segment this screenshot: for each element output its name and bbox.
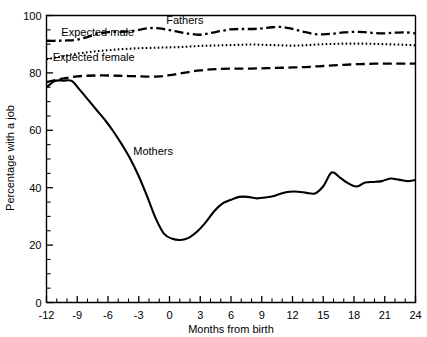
x-tick-label: -9	[72, 309, 82, 321]
x-tick-label: 18	[348, 309, 360, 321]
y-tick-label: 80	[29, 67, 41, 79]
y-axis-title: Percentage with a job	[4, 105, 16, 211]
series-label-expected-male: Expected male	[61, 26, 134, 38]
x-tick-label: 9	[259, 309, 265, 321]
x-tick-label: 6	[228, 309, 234, 321]
y-tick-label: 20	[29, 239, 41, 251]
x-tick-label: -6	[103, 309, 113, 321]
x-tick-label: 0	[166, 309, 172, 321]
x-tick-label: 24	[409, 309, 421, 321]
x-tick-label: -3	[134, 309, 144, 321]
series-label-expected-female: Expected female	[53, 51, 135, 63]
y-tick-label: 60	[29, 124, 41, 136]
x-tick-label: 3	[197, 309, 203, 321]
chart-container: 020406080100 -12-9-6-303691215182124 Mot…	[0, 0, 427, 337]
x-tick-label: 21	[379, 309, 391, 321]
x-tick-label: 12	[286, 309, 298, 321]
employment-line-chart: 020406080100 -12-9-6-303691215182124 Mot…	[0, 0, 427, 337]
series-label-fathers: Fathers	[166, 14, 204, 26]
series-label-mothers: Mothers	[133, 145, 173, 157]
y-tick-label: 100	[23, 10, 41, 22]
y-tick-label: 40	[29, 182, 41, 194]
x-tick-label: 15	[317, 309, 329, 321]
y-tick-label: 0	[35, 297, 41, 309]
x-tick-label: -12	[39, 309, 55, 321]
x-axis-title: Months from birth	[188, 323, 274, 335]
